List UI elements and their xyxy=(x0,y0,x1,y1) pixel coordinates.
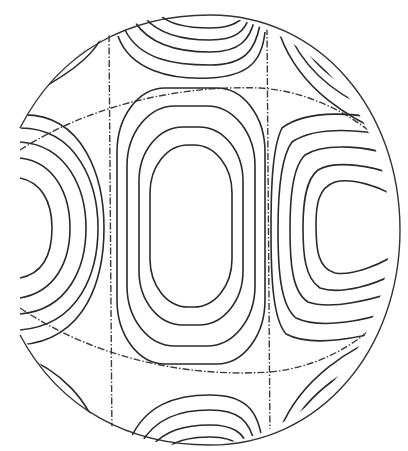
sphere-contour-diagram xyxy=(0,0,408,451)
nodal-lines xyxy=(20,28,400,440)
latitude-bottom xyxy=(20,300,400,373)
right-lobe-contours xyxy=(271,114,400,341)
left-lobe-contours xyxy=(20,115,104,345)
meridian-right xyxy=(267,28,270,440)
meridian-left xyxy=(109,35,112,440)
sphere-outline xyxy=(20,15,400,445)
center-lobe-contours xyxy=(117,88,265,364)
top-contours xyxy=(20,15,400,140)
